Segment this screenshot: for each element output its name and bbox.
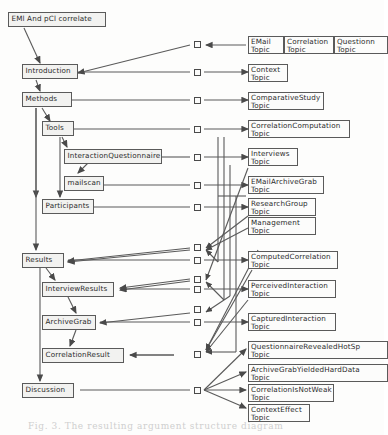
junction-node[interactable] xyxy=(194,182,201,189)
node-correlation-result[interactable]: CorrelationResult xyxy=(42,348,124,363)
junction-node[interactable] xyxy=(194,126,201,133)
node-results[interactable]: Results xyxy=(22,253,64,268)
topic-researchgroup[interactable]: ResearchGroup Topic xyxy=(248,198,316,216)
topic-line2: Topic xyxy=(251,227,313,235)
topic-archivegrabyieldedharddata[interactable]: ArchiveGrabYieldedHardData Topic xyxy=(248,364,388,382)
topic-computedcorrelation[interactable]: ComputedCorrelation Topic xyxy=(248,251,338,269)
junction-node[interactable] xyxy=(194,41,201,48)
node-participants[interactable]: Participants xyxy=(42,199,94,214)
node-methods[interactable]: Methods xyxy=(22,92,72,107)
junction-node[interactable] xyxy=(194,319,201,326)
junction-node[interactable] xyxy=(194,257,201,264)
topic-line2: Topic xyxy=(287,46,331,54)
topic-correlationcomputation[interactable]: CorrelationComputation Topic xyxy=(248,120,350,138)
node-introduction[interactable]: Introduction xyxy=(22,64,78,79)
topic-line2: Topic xyxy=(251,290,333,298)
node-archive-grab[interactable]: ArchiveGrab xyxy=(42,315,96,330)
topic-line2: Topic xyxy=(251,46,281,54)
topic-capturedinteraction[interactable]: CapturedInteraction Topic xyxy=(248,313,336,331)
topic-context[interactable]: Context Topic xyxy=(248,64,288,82)
junction-node[interactable] xyxy=(194,306,201,313)
node-tools[interactable]: Tools xyxy=(42,121,74,136)
junction-node[interactable] xyxy=(194,244,201,251)
topic-contexteffect[interactable]: ContextEffect Topic xyxy=(248,404,310,422)
node-interview-results[interactable]: InterviewResults xyxy=(42,282,114,297)
node-discussion[interactable]: Discussion xyxy=(22,383,74,398)
junction-node[interactable] xyxy=(194,351,201,358)
topic-line1: QuestionnaireRevealedHotSp xyxy=(251,343,385,351)
topic-line1: ArchiveGrabYieldedHardData xyxy=(251,366,385,374)
topic-emailarchivegrab[interactable]: EMailArchiveGrab Topic xyxy=(248,176,324,194)
junction-node[interactable] xyxy=(194,387,201,394)
topic-line2: Topic xyxy=(337,46,385,54)
topic-line2: Topic xyxy=(251,74,285,82)
junction-node[interactable] xyxy=(194,286,201,293)
topic-comparativestudy[interactable]: ComparativeStudy Topic xyxy=(248,92,324,110)
topic-line2: Topic xyxy=(251,208,313,216)
node-title-box[interactable]: EMl And pCl correlate xyxy=(8,12,106,27)
topic-line2: Topic xyxy=(251,394,331,402)
topic-line2: Topic xyxy=(251,186,321,194)
topic-correlation[interactable]: Correlation Topic xyxy=(284,36,334,54)
topic-interviews[interactable]: Interviews Topic xyxy=(248,148,298,166)
junction-node[interactable] xyxy=(194,97,201,104)
topic-email[interactable]: EMail Topic xyxy=(248,36,284,54)
topic-management[interactable]: Management Topic xyxy=(248,217,316,235)
junction-node[interactable] xyxy=(194,204,201,211)
topic-correlationisnotweak[interactable]: CorrelationIsNotWeak Topic xyxy=(248,384,334,402)
figure-caption: Fig. 3. The resulting argument structure… xyxy=(28,421,283,431)
topic-line2: Topic xyxy=(251,323,333,331)
junction-node[interactable] xyxy=(194,69,201,76)
node-mailscan[interactable]: mailscan xyxy=(64,176,104,191)
topic-line2: Topic xyxy=(251,374,385,382)
topic-line2: Topic xyxy=(251,102,321,110)
topic-line2: Topic xyxy=(251,261,335,269)
topic-line2: Topic xyxy=(251,130,347,138)
topic-line2: Topic xyxy=(251,158,295,166)
junction-node[interactable] xyxy=(194,154,201,161)
topic-questionnaire[interactable]: Questionn Topic xyxy=(334,36,388,54)
node-interaction-questionnaire[interactable]: InteractionQuestionnaire xyxy=(64,149,162,164)
topic-questionnairerevealedhotspot[interactable]: QuestionnaireRevealedHotSp Topic xyxy=(248,341,388,359)
junction-node[interactable] xyxy=(194,276,201,283)
topic-perceivedinteraction[interactable]: PerceivedInteraction Topic xyxy=(248,280,336,298)
topic-line2: Topic xyxy=(251,351,385,359)
